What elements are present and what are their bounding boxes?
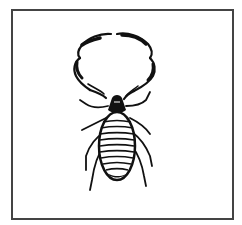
right-pedipalp <box>117 33 155 99</box>
pseudoscorpion-illustration <box>0 0 242 225</box>
cephalothorax <box>108 95 126 113</box>
left-pedipalp <box>74 34 111 98</box>
abdomen <box>99 112 135 180</box>
